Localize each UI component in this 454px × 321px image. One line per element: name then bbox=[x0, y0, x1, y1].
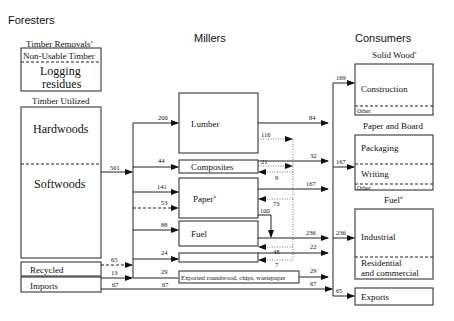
composites-label: Composites bbox=[191, 162, 234, 172]
packaging-label: Packaging bbox=[361, 143, 399, 153]
flow-label-13: 13 bbox=[111, 269, 118, 276]
logging-residues-line1: Logging bbox=[40, 64, 81, 78]
column-title-foresters: Foresters bbox=[8, 14, 55, 26]
flow-paper-to-fuel bbox=[258, 215, 271, 237]
flow-label-236-fuel: 236 bbox=[306, 229, 317, 236]
exports-label: Exports bbox=[361, 292, 389, 302]
flow-label-67-a: 67 bbox=[112, 281, 119, 288]
solid-other-label: Other bbox=[357, 108, 371, 114]
softwoods-label: Softwoods bbox=[34, 177, 86, 191]
timber-utilized-label: Timber Utilized bbox=[32, 96, 90, 106]
small-residue-box bbox=[179, 253, 258, 262]
logging-residues-line2: residues bbox=[42, 77, 82, 91]
flow-label-9: 9 bbox=[275, 174, 278, 181]
solid-wood-label: Solid Woodc bbox=[372, 50, 417, 60]
hardwoods-label: Hardwoods bbox=[33, 122, 89, 136]
imports-label: Imports bbox=[30, 281, 58, 291]
flow-label-73: 73 bbox=[273, 200, 280, 207]
paper-label: Paperb bbox=[193, 194, 217, 204]
flow-label-116: 116 bbox=[261, 131, 271, 138]
flow-label-169: 169 bbox=[336, 74, 346, 81]
flow-label-24: 24 bbox=[161, 249, 168, 256]
flow-label-67-b: 67 bbox=[162, 281, 169, 288]
paper-board-label: Paper and Board bbox=[363, 121, 423, 131]
recycled-label: Recycled bbox=[30, 265, 64, 275]
flow-label-7: 7 bbox=[275, 261, 279, 268]
lumber-label: Lumber bbox=[191, 119, 220, 129]
exported-roundwood-label: Exported roundwood, chips, wastepaper bbox=[181, 274, 286, 281]
flow-label-67-out: 67 bbox=[310, 280, 317, 287]
flow-label-44: 44 bbox=[158, 157, 165, 164]
non-usable-timber-label: Non-Usable Timber bbox=[23, 51, 95, 61]
wood-flow-diagram: Foresters Millers Consumers Timber Remov… bbox=[0, 0, 454, 321]
flow-label-65: 65 bbox=[111, 256, 118, 263]
writing-label: Writing bbox=[361, 169, 389, 179]
flow-label-141: 141 bbox=[157, 183, 167, 190]
paper-box bbox=[179, 178, 258, 218]
flow-label-501: 501 bbox=[110, 164, 120, 171]
fuel-consumer-label: Fueld bbox=[384, 195, 403, 205]
column-title-millers: Millers bbox=[194, 32, 226, 44]
column-title-consumers: Consumers bbox=[355, 32, 412, 44]
flow-label-167-consumer: 167 bbox=[336, 158, 347, 165]
flow-label-32: 32 bbox=[310, 152, 317, 159]
flow-label-53: 53 bbox=[161, 199, 168, 206]
industrial-label: Industrial bbox=[361, 232, 396, 242]
flow-label-29-out: 29 bbox=[310, 267, 317, 274]
flow-label-65-exports: 65 bbox=[336, 287, 343, 294]
fuel-label: Fuel bbox=[191, 229, 208, 239]
residential-label-line2: and commercial bbox=[361, 268, 419, 278]
flow-label-200: 200 bbox=[158, 114, 168, 121]
construction-label: Construction bbox=[361, 84, 408, 94]
flow-label-29-in: 29 bbox=[161, 268, 168, 275]
residential-label-line1: Residential bbox=[361, 258, 402, 268]
flow-label-84: 84 bbox=[309, 114, 316, 121]
flow-label-22: 22 bbox=[310, 243, 317, 250]
flow-label-236-consumer: 236 bbox=[336, 229, 347, 236]
flow-label-88: 88 bbox=[161, 221, 168, 228]
flow-label-48: 48 bbox=[273, 248, 280, 255]
paper-other-label: Other bbox=[357, 185, 371, 191]
flow-label-167-paper: 167 bbox=[306, 180, 317, 187]
flow-label-100: 100 bbox=[260, 207, 270, 214]
